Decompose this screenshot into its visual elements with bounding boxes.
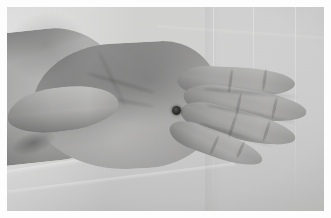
photo-frame: Open palm of a hand Close-up photograph …: [0, 0, 331, 218]
palm-photograph: [7, 7, 324, 211]
photo-vignette: [7, 7, 324, 211]
